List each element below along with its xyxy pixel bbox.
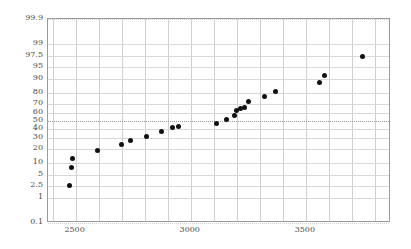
gridline-vertical [168, 19, 169, 221]
gridline-vertical [352, 19, 353, 221]
data-point [69, 165, 74, 170]
x-axis-tick-label: 3500 [295, 226, 315, 234]
x-axis-tick-label: 3000 [180, 226, 200, 234]
data-point [159, 129, 164, 134]
gridline-vertical [145, 19, 146, 221]
data-point [224, 117, 229, 122]
data-point [322, 73, 327, 78]
data-point [67, 183, 72, 188]
y-axis-tick-label: 40 [0, 124, 43, 132]
y-axis-tick-label: 80 [0, 88, 43, 96]
gridline-vertical [122, 19, 123, 221]
data-point [70, 156, 75, 161]
y-axis-tick-label: 97.5 [0, 51, 43, 59]
data-point [214, 121, 219, 126]
x-axis-tick-label: 2500 [64, 226, 84, 234]
gridline-horizontal [48, 186, 389, 187]
normal-probability-plot: 99.99997.59590807060504030201052.510.125… [0, 0, 411, 249]
gridline-horizontal [48, 93, 389, 94]
gridline-vertical [76, 19, 77, 221]
data-point [95, 148, 100, 153]
gridline-vertical [306, 19, 307, 221]
gridline-vertical [283, 19, 284, 221]
gridline-vertical [99, 19, 100, 221]
y-axis-tick-label: 5 [0, 170, 43, 178]
data-point [170, 125, 175, 130]
y-axis-tick-label: 99.9 [0, 14, 43, 22]
y-axis-tick-label: 99 [0, 39, 43, 47]
gridline-vertical [214, 19, 215, 221]
gridline-vertical [329, 19, 330, 221]
gridline-horizontal [48, 67, 389, 68]
gridline-horizontal [48, 19, 389, 20]
gridline-horizontal [48, 198, 389, 199]
data-point [262, 94, 267, 99]
y-axis-tick-label: 90 [0, 74, 43, 82]
gridline-vertical [260, 19, 261, 221]
data-point [242, 105, 247, 110]
data-point [119, 142, 124, 147]
gridline-horizontal [48, 113, 389, 114]
gridline-horizontal [48, 138, 389, 139]
y-axis-tick-label: 10 [0, 158, 43, 166]
y-axis-tick-label: 0.1 [0, 218, 43, 226]
gridline-horizontal [48, 163, 389, 164]
y-axis-tick-label: 30 [0, 133, 43, 141]
data-point [232, 113, 237, 118]
data-point [317, 80, 322, 85]
gridline-vertical [375, 19, 376, 221]
data-point [360, 54, 365, 59]
y-axis-tick-label: 70 [0, 99, 43, 107]
y-axis-tick-label: 20 [0, 144, 43, 152]
y-axis-tick-label: 95 [0, 62, 43, 70]
gridline-horizontal [48, 104, 389, 105]
data-point [128, 138, 133, 143]
plot-area [47, 18, 390, 222]
gridline-horizontal [48, 223, 389, 224]
gridline-horizontal [48, 56, 389, 57]
gridline-vertical [237, 19, 238, 221]
gridline-horizontal [48, 79, 389, 80]
gridline-horizontal [48, 44, 389, 45]
gridline-horizontal [48, 175, 389, 176]
data-point [176, 124, 181, 129]
gridline-vertical [191, 19, 192, 221]
y-axis-tick-label: 1 [0, 193, 43, 201]
gridline-horizontal [48, 129, 389, 130]
y-axis-tick-label: 2.5 [0, 181, 43, 189]
gridline-vertical [53, 19, 54, 221]
